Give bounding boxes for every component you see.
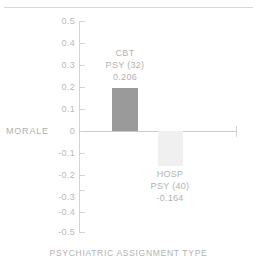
bar-hosp[interactable] xyxy=(158,131,183,166)
y-axis-title: MORALE xyxy=(6,127,49,136)
y-tick-label: -0.3 xyxy=(15,193,75,202)
bar-cbt[interactable] xyxy=(112,88,138,131)
y-tick-mark xyxy=(80,109,85,110)
bar-label-hosp-line1: HOSP xyxy=(122,168,218,180)
x-axis-end-tick xyxy=(236,126,237,137)
y-tick-mark xyxy=(80,43,85,44)
y-tick-label: -0.5 xyxy=(15,228,75,237)
bar-label-hosp: HOSP PSY (40) -0.164 xyxy=(122,168,218,204)
y-tick-mark xyxy=(80,190,85,191)
y-tick-label: 0.3 xyxy=(15,61,75,70)
y-tick-mark xyxy=(80,212,85,213)
y-tick-label: -0.1 xyxy=(15,149,75,158)
y-tick-label: -0.2 xyxy=(15,171,75,180)
y-tick-mark xyxy=(80,175,85,176)
bar-label-cbt: CBT PSY (32) 0.206 xyxy=(77,47,173,83)
bar-value-hosp: -0.164 xyxy=(122,192,218,204)
y-tick-label: -0.4 xyxy=(15,208,75,217)
y-tick-label: 0.4 xyxy=(15,39,75,48)
bar-label-cbt-line2: PSY (32) xyxy=(77,59,173,71)
x-axis-title: PSYCHIATRIC ASSIGNMENT TYPE xyxy=(0,248,257,258)
bar-chart: 0.5 0.4 0.3 0.2 0.1 0 -0.1 -0.2 -0.3 -0.… xyxy=(0,0,257,271)
y-tick-mark xyxy=(80,153,85,154)
y-tick-label: 0.2 xyxy=(15,83,75,92)
y-tick-mark xyxy=(80,131,85,132)
y-tick-label: 0.1 xyxy=(15,105,75,114)
bar-label-cbt-line1: CBT xyxy=(77,47,173,59)
bar-value-cbt: 0.206 xyxy=(77,71,173,83)
bar-label-hosp-line2: PSY (40) xyxy=(122,180,218,192)
y-tick-mark xyxy=(80,21,85,22)
y-tick-label: 0.5 xyxy=(15,17,75,26)
y-tick-mark xyxy=(80,87,85,88)
y-tick-mark xyxy=(80,232,85,233)
